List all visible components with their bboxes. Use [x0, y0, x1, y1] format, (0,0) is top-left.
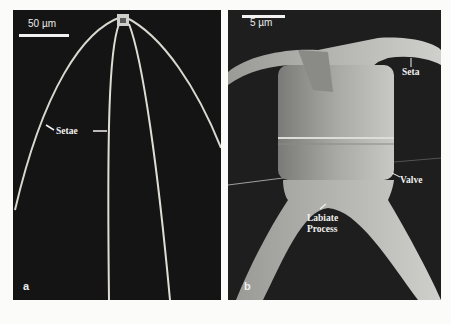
label-process: Process [307, 224, 337, 234]
scale-bar [19, 34, 69, 37]
label-setae: Setae [56, 126, 78, 136]
micrograph-panel-b: 5 µm Seta Valve Labiate Process b [228, 10, 441, 300]
label-labiate: Labiate [307, 213, 338, 223]
label-valve: Valve [400, 175, 422, 185]
panel-letter: b [244, 280, 251, 292]
panel-letter: a [23, 280, 29, 292]
diatom-sem-micrograph [228, 10, 441, 300]
micrograph-panel-a: 50 µm Setae a [13, 10, 221, 300]
label-seta: Seta [402, 67, 419, 77]
scale-bar-label: 50 µm [28, 18, 56, 29]
setae-micrograph [13, 10, 221, 300]
scale-bar [242, 15, 285, 18]
scale-bar-label: 5 µm [250, 17, 272, 28]
